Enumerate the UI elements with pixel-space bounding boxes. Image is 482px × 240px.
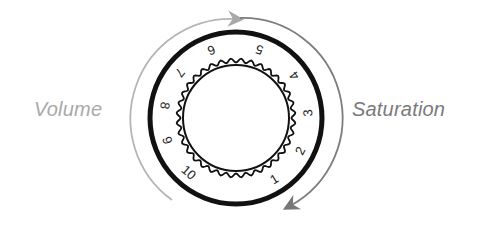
knob-face (183, 65, 289, 171)
volume-label: Volume (34, 98, 102, 121)
saturation-label: Saturation (352, 98, 445, 121)
scale-numeral: 3 (300, 109, 315, 117)
